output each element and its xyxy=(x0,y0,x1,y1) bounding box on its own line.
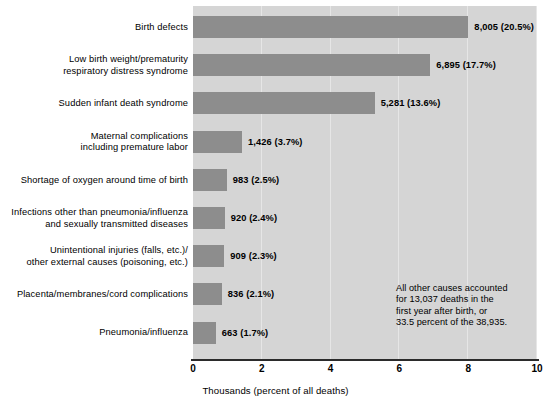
bar-row: Unintentional injuries (falls, etc.)/ ot… xyxy=(0,245,551,283)
category-label: Low birth weight/prematurity respiratory… xyxy=(0,54,188,76)
category-label: Infections other than pneumonia/influenz… xyxy=(0,207,188,229)
bar-row: Low birth weight/prematurity respiratory… xyxy=(0,54,551,92)
x-tick-label: 0 xyxy=(190,363,196,374)
x-tick-label: 8 xyxy=(465,363,471,374)
bar-value-label: 1,426 (3.7%) xyxy=(248,131,302,153)
bar-value-label: 5,281 (13.6%) xyxy=(381,92,441,114)
bar xyxy=(193,283,222,305)
category-label: Unintentional injuries (falls, etc.)/ ot… xyxy=(0,245,188,267)
horizontal-bar-chart: Birth defects8,005 (20.5%)Low birth weig… xyxy=(0,0,551,408)
x-axis-title: Thousands (percent of all deaths) xyxy=(0,385,551,396)
bar-row: Shortage of oxygen around time of birth9… xyxy=(0,169,551,207)
bar-value-label: 983 (2.5%) xyxy=(233,169,279,191)
bar-value-label: 6,895 (17.7%) xyxy=(436,54,496,76)
bar-row: Sudden infant death syndrome5,281 (13.6%… xyxy=(0,92,551,130)
category-label: Pneumonia/influenza xyxy=(0,327,188,338)
category-label: Shortage of oxygen around time of birth xyxy=(0,175,188,186)
bar xyxy=(193,92,375,114)
bar-row: Infections other than pneumonia/influenz… xyxy=(0,207,551,245)
bar-value-label: 836 (2.1%) xyxy=(228,283,274,305)
category-label: Placenta/membranes/cord complications xyxy=(0,289,188,300)
bar xyxy=(193,169,227,191)
bar-value-label: 920 (2.4%) xyxy=(231,207,277,229)
x-tick-label: 6 xyxy=(397,363,403,374)
x-tick-label: 10 xyxy=(531,363,542,374)
bar xyxy=(193,131,242,153)
bar-value-label: 663 (1.7%) xyxy=(222,322,268,344)
bar xyxy=(193,16,468,38)
bar-value-label: 8,005 (20.5%) xyxy=(474,16,534,38)
bar-value-label: 909 (2.3%) xyxy=(230,245,276,267)
bar xyxy=(193,54,430,76)
category-label: Sudden infant death syndrome xyxy=(0,98,188,109)
x-tick-label: 4 xyxy=(328,363,334,374)
chart-annotation: All other causes accounted for 13,037 de… xyxy=(396,283,536,329)
bar xyxy=(193,322,216,344)
category-label: Birth defects xyxy=(0,22,188,33)
bar xyxy=(193,207,225,229)
category-label: Maternal complications including prematu… xyxy=(0,131,188,153)
bar-row: Birth defects8,005 (20.5%) xyxy=(0,16,551,54)
x-tick-label: 2 xyxy=(259,363,265,374)
bar xyxy=(193,245,224,267)
bar-row: Maternal complications including prematu… xyxy=(0,131,551,169)
